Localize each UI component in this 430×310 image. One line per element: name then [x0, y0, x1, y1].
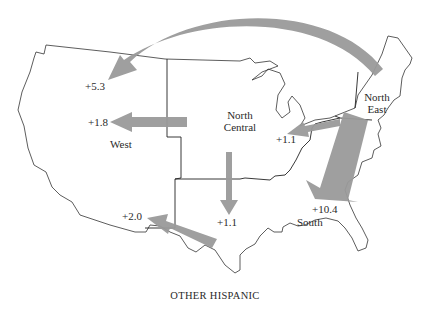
region-line: East [355, 103, 399, 115]
flow-value-ne-south: +10.4 [312, 203, 337, 215]
flow-value-south-west: +2.0 [122, 210, 142, 222]
flow-value-nc-west: +1.8 [88, 116, 108, 128]
region-label-north-east: North East [355, 91, 399, 115]
region-line: North [355, 91, 399, 103]
arrow-south-to-west [147, 214, 217, 248]
west-border [145, 59, 181, 228]
arrow-northeast-to-west [108, 18, 383, 80]
arrow-northcentral-to-west [110, 112, 187, 132]
region-line: North [212, 109, 268, 121]
flow-value-ne-nc: +1.1 [276, 133, 296, 145]
map-caption: OTHER HISPANIC [0, 290, 430, 301]
flow-value-ne-west: +5.3 [85, 80, 105, 92]
region-label-north-central: North Central [212, 109, 268, 133]
region-label-west: West [110, 138, 132, 150]
region-label-south: South [297, 216, 323, 228]
us-region-map [0, 0, 430, 310]
flow-value-nc-south: +1.1 [217, 216, 237, 228]
region-line: Central [212, 121, 268, 133]
arrow-northcentral-to-south-shaft [220, 152, 238, 215]
